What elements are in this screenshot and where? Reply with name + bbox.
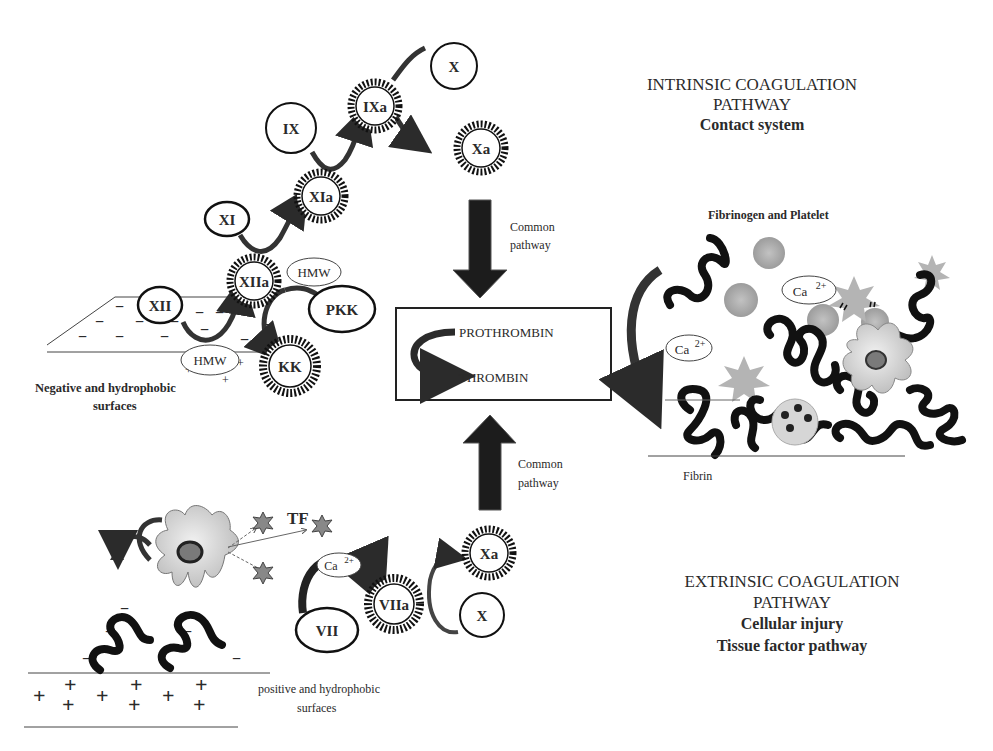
node-X-extrinsic: X	[460, 593, 504, 637]
tf-label: TF	[287, 509, 309, 528]
svg-text:IX: IX	[283, 121, 300, 137]
svg-text:+: +	[162, 683, 175, 708]
extrinsic-title: EXTRINSIC COAGULATION PATHWAY Cellular i…	[685, 572, 900, 655]
svg-text:−: −	[200, 321, 209, 338]
svg-text:2+: 2+	[816, 280, 827, 291]
injured-cell-icon	[156, 506, 239, 588]
node-IXa: IXa	[351, 82, 399, 130]
negative-surface-label-2: surfaces	[93, 399, 137, 413]
node-Xa-extrinsic: Xa	[465, 529, 513, 577]
ca-badge-clot-2: Ca 2+	[666, 335, 712, 361]
svg-text:−: −	[232, 650, 241, 667]
common-pathway-up-arrow	[463, 415, 516, 510]
svg-text:Xa: Xa	[480, 546, 499, 562]
svg-text:X: X	[449, 59, 460, 75]
svg-text:HMW: HMW	[297, 265, 331, 280]
clot-formation-arrow	[631, 270, 660, 405]
node-HMW-top: HMW	[287, 258, 341, 286]
node-VIIa: VIIa	[368, 578, 420, 630]
svg-text:Ca: Ca	[324, 559, 338, 573]
svg-text:XIIa: XIIa	[239, 274, 270, 290]
svg-text:−: −	[115, 328, 124, 345]
extrinsic-title-line1: EXTRINSIC COAGULATION	[685, 572, 900, 591]
extrinsic-subtitle-2: Tissue factor pathway	[717, 637, 868, 655]
svg-text:+: +	[193, 692, 206, 717]
common-pathway-label-top-2: pathway	[510, 238, 551, 252]
prothrombin-label: PROTHROMBIN	[459, 325, 554, 340]
negative-surface-label: Negative and hydrophobic	[35, 381, 176, 395]
extrinsic-subtitle-1: Cellular injury	[741, 615, 843, 633]
svg-text:XII: XII	[149, 298, 172, 314]
svg-text:−: −	[240, 331, 249, 348]
common-pathway-label-bottom-1: Common	[518, 457, 563, 471]
node-XIIa: XIIa	[230, 257, 278, 305]
common-pathway-label-top-1: Common	[510, 220, 555, 234]
svg-text:IXa: IXa	[363, 99, 388, 115]
svg-text:−: −	[160, 328, 169, 345]
thrombin-label: THROMBIN	[459, 370, 529, 385]
svg-text:+: +	[62, 692, 75, 717]
svg-text:+: +	[33, 683, 46, 708]
node-XI: XI	[205, 202, 249, 236]
ca-badge-clot-1: Ca 2+	[782, 276, 836, 304]
svg-text:−: −	[115, 298, 124, 315]
svg-text:KK: KK	[278, 359, 302, 375]
svg-text:−: −	[95, 313, 104, 330]
positive-surface-label: positive and hydrophobic	[258, 682, 380, 696]
svg-text:−: −	[78, 328, 87, 345]
svg-text:Ca: Ca	[675, 342, 690, 357]
svg-text:VIIa: VIIa	[379, 597, 410, 613]
node-X-intrinsic: X	[431, 43, 477, 89]
coagulation-diagram: INTRINSIC COAGULATION PATHWAY Contact sy…	[0, 0, 993, 751]
node-XII: XII	[138, 287, 182, 323]
svg-text:−: −	[195, 304, 204, 321]
fibrinogen-squiggle-icon	[93, 617, 150, 670]
svg-text:VII: VII	[316, 623, 339, 639]
svg-text:−: −	[215, 304, 224, 321]
tf-release-arrows	[228, 528, 306, 568]
x-activation-arrow	[429, 557, 458, 633]
node-IX: IX	[266, 103, 316, 153]
intrinsic-subtitle: Contact system	[700, 116, 805, 134]
leukocyte-icon	[772, 399, 818, 445]
positive-surface: + + + + + + + + + − − − − −	[24, 600, 270, 727]
svg-text:Ca: Ca	[793, 284, 808, 299]
common-pathway-label-bottom-2: pathway	[518, 476, 559, 490]
svg-text:X: X	[477, 608, 488, 624]
node-XIa: XIa	[297, 172, 345, 220]
node-PKK: PKK	[309, 286, 375, 332]
svg-text:Xa: Xa	[472, 141, 491, 157]
prothrombin-thrombin-box: PROTHROMBIN THROMBIN	[396, 308, 611, 400]
common-pathway-down-arrow	[453, 200, 507, 298]
svg-text:XIa: XIa	[309, 189, 334, 205]
svg-text:2+: 2+	[695, 338, 706, 349]
node-VII: VII	[296, 608, 358, 652]
svg-text:XI: XI	[219, 212, 236, 228]
svg-text:PKK: PKK	[326, 302, 359, 318]
node-Xa-intrinsic: Xa	[457, 124, 505, 172]
positive-surface-label-2: surfaces	[297, 701, 337, 715]
intrinsic-title: INTRINSIC COAGULATION PATHWAY Contact sy…	[647, 75, 857, 134]
svg-text:+: +	[222, 373, 229, 387]
intrinsic-title-line2: PATHWAY	[713, 95, 791, 114]
svg-text:+: +	[96, 683, 109, 708]
node-HMW-bottom: HMW	[181, 345, 239, 375]
ca-badge-extrinsic: Ca 2+	[317, 553, 361, 577]
intrinsic-title-line1: INTRINSIC COAGULATION	[647, 75, 857, 94]
fibrinogen-platelet-label: Fibrinogen and Platelet	[708, 208, 829, 222]
svg-text:+: +	[128, 692, 141, 717]
node-KK: KK	[263, 339, 317, 393]
svg-text:2+: 2+	[344, 555, 354, 565]
fibrin-label: Fibrin	[683, 469, 712, 483]
svg-text:HMW: HMW	[193, 353, 227, 368]
extrinsic-title-line2: PATHWAY	[753, 593, 831, 612]
